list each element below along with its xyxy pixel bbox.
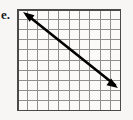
grid-plot-area (17, 9, 121, 111)
item-letter-label: e. (1, 8, 10, 21)
grid-and-line-graphic (17, 9, 121, 111)
figure-container: e. (0, 0, 133, 120)
